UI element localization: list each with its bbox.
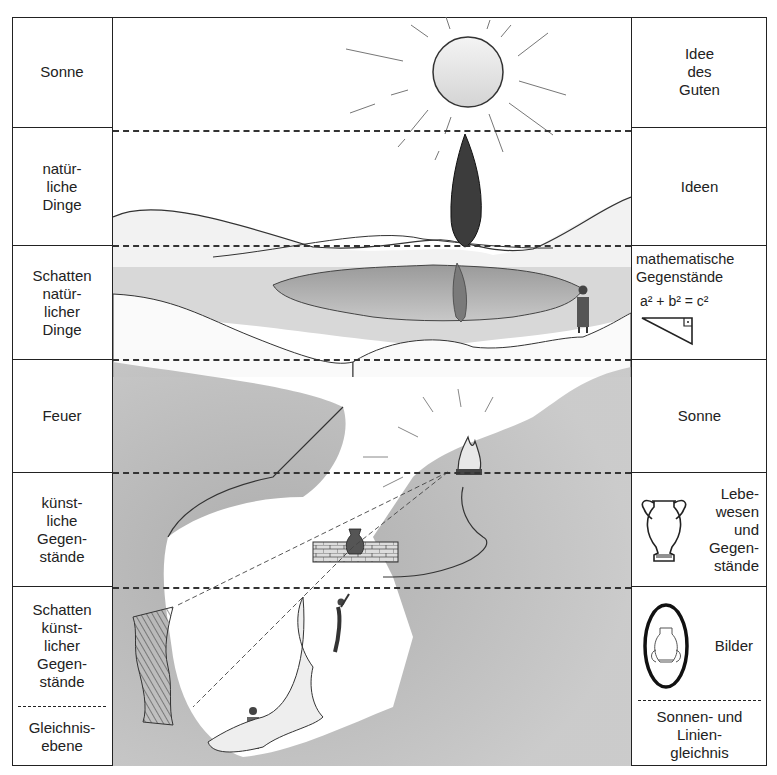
left-cell-kuenstliche-gegenstaende: künst- liche Gegen- stände bbox=[12, 473, 112, 587]
right-cell-sonne: Sonne bbox=[632, 360, 767, 473]
cypress-tree bbox=[451, 134, 481, 247]
left-cell-feuer: Feuer bbox=[12, 360, 112, 473]
right-footer-separator bbox=[638, 700, 761, 701]
left-cell-sonne: Sonne bbox=[12, 17, 112, 128]
left-cell-schatten-kuenstlicher-gegenstaende: Schatten künst- licher Gegen- stände bbox=[12, 587, 112, 705]
hills bbox=[113, 197, 631, 267]
right-column: Idee des Guten Ideen mathematische Gegen… bbox=[631, 17, 767, 766]
left-cell-natuerliche-dinge: natür- liche Dinge bbox=[12, 128, 112, 246]
right-triangle-icon bbox=[640, 316, 696, 346]
level-divider-4 bbox=[113, 472, 631, 474]
level-divider-2 bbox=[113, 245, 631, 247]
level-divider-5 bbox=[113, 587, 631, 589]
right-cell-mathematische-gegenstaende: mathematische Gegenstände a² + b² = c² bbox=[632, 246, 767, 360]
sun bbox=[346, 17, 566, 160]
level-divider-1 bbox=[113, 130, 631, 132]
framed-amphora-image-icon bbox=[642, 602, 690, 690]
cave bbox=[113, 362, 631, 766]
right-footer-sonnen-und-liniengleichnis: Sonnen- und Linien- gleichnis bbox=[632, 703, 767, 766]
left-column: Sonne natür- liche Dinge Schatten natür-… bbox=[12, 17, 113, 766]
level-divider-3 bbox=[113, 359, 631, 361]
right-cell-bilder: Bilder bbox=[632, 587, 767, 705]
right-cell-lebewesen-und-gegenstaende: Lebe- wesen und Gegen- stände bbox=[632, 473, 767, 587]
right-cell-ideen: Ideen bbox=[632, 128, 767, 246]
pythagoras-formula: a² + b² = c² bbox=[640, 292, 708, 310]
right-cell-idee-des-guten: Idee des Guten bbox=[632, 17, 767, 128]
left-footer-gleichnisebene: Gleichnis- ebene bbox=[12, 707, 112, 766]
left-cell-schatten-natuerlicher-dinge: Schatten natür- licher Dinge bbox=[12, 246, 112, 360]
amphora-icon bbox=[638, 495, 690, 565]
